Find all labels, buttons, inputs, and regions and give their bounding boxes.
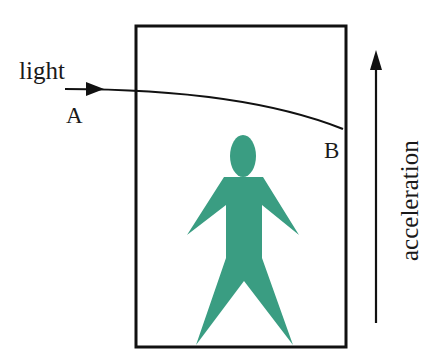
acceleration-label: acceleration [396,140,423,261]
equivalence-principle-diagram: light A B acceleration [0,0,442,363]
light-label: light [19,57,65,84]
figure-body [187,177,299,345]
figure-head [230,135,256,177]
light-arrowhead-icon [86,82,104,96]
point-b-label: B [324,138,339,163]
acceleration-arrowhead-icon [370,50,382,70]
point-a-label: A [66,103,83,128]
curved-light-ray [65,89,343,129]
person-figure [187,135,299,345]
